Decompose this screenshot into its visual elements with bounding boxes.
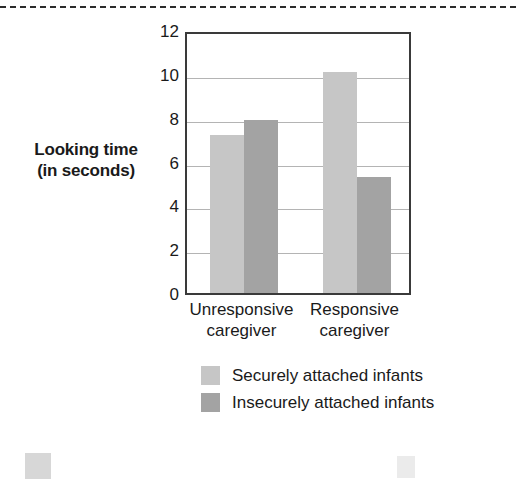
y-tick-label-12: 12 [145, 23, 179, 40]
y-axis-title-line-2: (in seconds) [6, 160, 166, 181]
x-label-1-line-2: caregiver [179, 320, 304, 341]
y-axis-tick-labels: 024681012 [145, 0, 179, 473]
legend-item-secure: Securely attached infants [201, 362, 501, 389]
x-label-2-line-2: caregiver [292, 320, 417, 341]
x-axis-category-labels: UnresponsivecaregiverResponsivecaregiver [185, 299, 411, 347]
plot-area [185, 32, 411, 295]
legend-swatch-insecure-icon [201, 393, 220, 412]
y-tick-label-2: 2 [145, 242, 179, 259]
x-axis-category-2: Responsivecaregiver [292, 299, 417, 342]
page-bleed-swatch-left [25, 453, 51, 479]
legend-item-insecure: Insecurely attached infants [201, 389, 501, 416]
bar-insecure-group-1 [244, 120, 278, 293]
y-tick-label-10: 10 [145, 67, 179, 84]
y-axis-title-line-1: Looking time [6, 139, 166, 160]
y-tick-label-0: 0 [145, 286, 179, 303]
legend-swatch-secure-icon [201, 366, 220, 385]
page-bleed-swatch-right [397, 456, 415, 478]
y-axis-title: Looking time (in seconds) [6, 139, 166, 182]
y-tick-label-8: 8 [145, 111, 179, 128]
y-tick-label-4: 4 [145, 198, 179, 215]
bar-secure-group-1 [210, 135, 244, 293]
bar-series-container [187, 34, 409, 293]
page-bleed-text-row [57, 458, 387, 472]
legend-label-insecure: Insecurely attached infants [232, 393, 434, 412]
legend-label-secure: Securely attached infants [232, 366, 423, 385]
bar-secure-group-2 [323, 72, 357, 293]
page-cut-dashed-rule [0, 6, 516, 8]
x-label-1-line-1: Unresponsive [179, 299, 304, 320]
chart-legend: Securely attached infantsInsecurely atta… [201, 362, 501, 416]
bar-insecure-group-2 [357, 177, 391, 293]
x-axis-category-1: Unresponsivecaregiver [179, 299, 304, 342]
y-tick-label-6: 6 [145, 155, 179, 172]
x-label-2-line-1: Responsive [292, 299, 417, 320]
